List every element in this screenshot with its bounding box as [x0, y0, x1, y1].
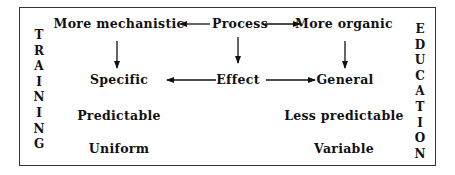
arrows — [0, 0, 455, 175]
